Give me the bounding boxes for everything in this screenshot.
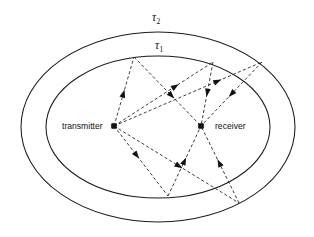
receiver-label: receiver (215, 121, 246, 131)
ray-bottom-inner-to-rx-arrowhead (180, 157, 186, 165)
ray-tx-to-bottom-inner-arrowhead (132, 150, 139, 158)
node-layer (111, 123, 203, 128)
receiver-dot (198, 123, 203, 128)
tau-1-label-subscript: 1 (160, 45, 164, 54)
transmitter-dot (111, 123, 116, 128)
transmitter-label: transmitter (62, 121, 103, 131)
ray-tx-to-right-outer (114, 62, 262, 126)
ray-tx-to-bottom-inner (114, 126, 168, 196)
ray-bottom-right-outer-to-rx-arrowhead (217, 159, 223, 167)
ray-tx-to-upper-left-inner-arrowhead (120, 90, 126, 98)
tau-2-label-subscript: 2 (157, 17, 161, 26)
figure-canvas: transmitterreceiverτ2τ1 (0, 0, 314, 237)
ray-upper-left-inner-to-rx (134, 57, 201, 126)
tau-1-label: τ1 (155, 39, 164, 54)
ray-tx-to-right-outer-arrowhead (213, 80, 221, 86)
ray-tx-to-upper-right-inner-arrowhead (170, 84, 178, 91)
ray-upper-right-inner-to-rx-arrowhead (205, 88, 211, 96)
tau-2-label: τ2 (152, 11, 161, 26)
ray-upper-left-inner-to-rx-arrowhead (167, 91, 175, 99)
ray-tx-to-upper-right-inner (114, 62, 213, 126)
scattering-ellipse-figure: transmitterreceiverτ2τ1 (0, 0, 314, 237)
